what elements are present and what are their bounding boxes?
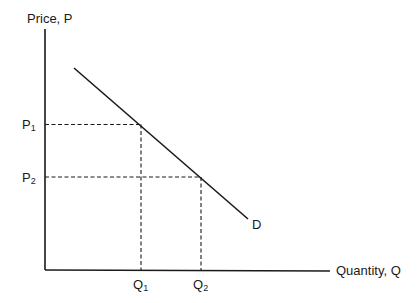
p2-label: P2 [22, 170, 36, 186]
curve-label-d: D [252, 217, 261, 232]
q2-label: Q2 [193, 277, 208, 293]
p1-label: P1 [22, 117, 36, 133]
demand-curve-d [74, 68, 248, 219]
q1-label: Q1 [133, 277, 148, 293]
demand-diagram: Price, P Quantity, Q D P1 P2 Q1 Q2 [0, 0, 419, 303]
y-axis-label: Price, P [27, 11, 73, 26]
x-axis [45, 270, 330, 271]
x-axis-label: Quantity, Q [336, 263, 401, 278]
